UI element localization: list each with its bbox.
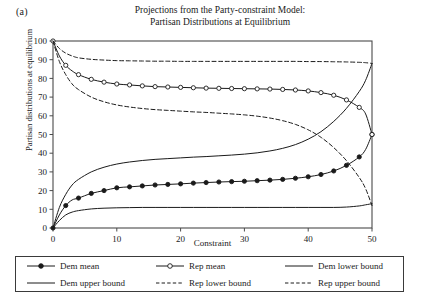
data-point (153, 183, 157, 187)
y-tick-label: 50 (38, 130, 48, 140)
data-point (166, 182, 170, 186)
data-point (127, 83, 131, 87)
data-point (357, 105, 361, 109)
y-tick-label: 100 (34, 36, 48, 46)
y-tick-label: 20 (38, 186, 48, 196)
data-point (268, 178, 272, 182)
series-dem-lower-bound (53, 204, 372, 228)
data-point (76, 73, 80, 77)
data-point (191, 86, 195, 90)
data-point (217, 86, 221, 90)
legend-item-label: Rep mean (189, 261, 225, 271)
data-point (179, 182, 183, 186)
data-point (102, 189, 106, 193)
data-point (127, 185, 131, 189)
legend-item-dem-mean: Dem mean (16, 261, 145, 271)
legend-item-label: Rep lower bound (189, 278, 251, 288)
data-point (89, 191, 93, 195)
data-point (293, 88, 297, 92)
y-tick-label: 30 (38, 167, 48, 177)
data-point (370, 132, 374, 136)
legend-item-rep-mean: Rep mean (145, 261, 274, 271)
data-point (102, 80, 106, 84)
data-point (344, 163, 348, 167)
data-point (357, 155, 361, 159)
data-point (179, 85, 183, 89)
data-point (306, 175, 310, 179)
data-point (242, 87, 246, 91)
data-point (204, 180, 208, 184)
data-point (204, 86, 208, 90)
data-point (166, 85, 170, 89)
series-rep-upper-bound (53, 41, 372, 63)
plot-frame (53, 41, 372, 228)
legend-key-icon (284, 278, 314, 288)
y-tick-label: 60 (38, 111, 48, 121)
data-point (306, 89, 310, 93)
legend-item-rep-upper-bound: Rep upper bound (274, 278, 403, 288)
x-tick-label: 20 (176, 234, 186, 244)
x-tick-label: 30 (240, 234, 250, 244)
legend-key-icon (26, 278, 56, 288)
data-point (242, 179, 246, 183)
data-point (89, 77, 93, 81)
legend-item-dem-upper-bound: Dem upper bound (16, 278, 145, 288)
series-rep-mean (51, 39, 374, 137)
data-point (230, 86, 234, 90)
data-point (332, 93, 336, 97)
data-point (268, 87, 272, 91)
data-point (319, 172, 323, 176)
y-tick-label: 80 (38, 74, 48, 84)
data-point (140, 84, 144, 88)
legend-item-dem-lower-bound: Dem lower bound (274, 261, 403, 271)
data-point (64, 203, 68, 207)
legend-item-label: Dem upper bound (60, 278, 125, 288)
x-tick-label: 0 (51, 234, 56, 244)
legend-item-rep-lower-bound: Rep lower bound (145, 278, 274, 288)
legend-item-label: Dem lower bound (318, 261, 383, 271)
legend-item-label: Rep upper bound (318, 278, 380, 288)
y-tick-label: 70 (38, 92, 48, 102)
y-tick-label: 10 (38, 205, 48, 215)
chart-legend: Dem meanRep meanDem lower boundDem upper… (15, 256, 404, 292)
data-point (64, 63, 68, 67)
data-point (191, 181, 195, 185)
y-tick-label: 90 (38, 55, 48, 65)
legend-key-icon (284, 261, 314, 271)
x-tick-label: 10 (112, 234, 122, 244)
data-point (255, 87, 259, 91)
data-point (140, 184, 144, 188)
y-tick-label: 0 (43, 223, 48, 233)
x-tick-label: 40 (304, 234, 314, 244)
data-point (293, 176, 297, 180)
data-point (281, 177, 285, 181)
legend-key-icon (155, 278, 185, 288)
legend-key-icon (155, 261, 185, 271)
data-point (217, 180, 221, 184)
data-point (332, 169, 336, 173)
data-point (255, 179, 259, 183)
data-point (115, 82, 119, 86)
series-dem-mean (51, 132, 374, 230)
data-point (76, 196, 80, 200)
figure-panel: (a) Projections from the Party-constrain… (0, 0, 421, 301)
series-rep-lower-bound (53, 41, 372, 206)
y-tick-label: 40 (38, 148, 48, 158)
legend-item-label: Dem mean (60, 261, 99, 271)
legend-key-icon (26, 261, 56, 271)
x-tick-label: 50 (368, 234, 378, 244)
data-point (153, 85, 157, 89)
data-point (230, 180, 234, 184)
data-point (281, 87, 285, 91)
data-point (115, 186, 119, 190)
data-point (319, 91, 323, 95)
data-point (344, 98, 348, 102)
